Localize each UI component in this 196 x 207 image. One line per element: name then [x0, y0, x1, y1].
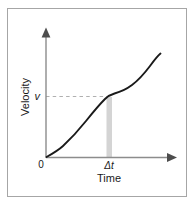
velocity-time-chart: Velocity v 0 Δt Time [8, 9, 186, 196]
delta-t-band [107, 97, 113, 158]
velocity-curve [47, 54, 161, 158]
figure-frame: Velocity v 0 Δt Time [7, 8, 187, 197]
x-axis-arrowhead [167, 153, 177, 162]
x-axis-label: Time [97, 172, 121, 184]
y-tick-label-v: v [35, 90, 42, 102]
y-axis-arrowhead [42, 28, 51, 38]
y-axis-label: Velocity [19, 78, 31, 116]
x-tick-label-delta-t: Δt [103, 160, 115, 171]
origin-label: 0 [38, 159, 44, 170]
